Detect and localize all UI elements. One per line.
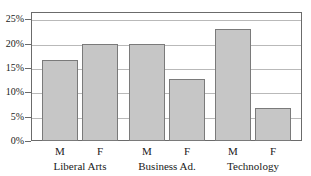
- y-axis-label-20%: 20%: [0, 39, 24, 49]
- x-group-label-business-ad: Business Ad.: [129, 160, 205, 172]
- bar-business-ad-f[interactable]: [169, 79, 205, 141]
- x-group-label-liberal-arts: Liberal Arts: [42, 160, 118, 172]
- x-sub-label-2: M: [129, 145, 165, 157]
- y-axis-label-slot: 0%: [0, 136, 24, 146]
- chart-title: [0, 0, 311, 2]
- x-sub-label-0: M: [42, 145, 78, 157]
- y-tick-0%: [25, 141, 31, 142]
- y-axis-label-slot: 20%: [0, 39, 24, 49]
- x-sub-label-5: F: [255, 145, 291, 157]
- y-axis-label-slot: 15%: [0, 63, 24, 73]
- x-sub-label-4: M: [215, 145, 251, 157]
- bar-business-ad-m[interactable]: [129, 44, 165, 141]
- x-sub-label-3: F: [169, 145, 205, 157]
- y-axis-label-5%: 5%: [0, 112, 24, 122]
- y-axis-label-25%: 25%: [0, 14, 24, 24]
- bar-liberal-arts-f[interactable]: [82, 44, 118, 141]
- x-sub-label-1: F: [82, 145, 118, 157]
- y-axis-label-15%: 15%: [0, 63, 24, 73]
- bar-liberal-arts-m[interactable]: [42, 60, 78, 141]
- y-axis-label-slot: 10%: [0, 87, 24, 97]
- bar-chart: 0%5%10%15%20%25% MFMFMFLiberal ArtsBusin…: [0, 0, 311, 176]
- x-group-label-technology: Technology: [215, 160, 291, 172]
- y-axis-label-0%: 0%: [0, 136, 24, 146]
- bar-technology-m[interactable]: [215, 29, 251, 141]
- y-axis-label-slot: 25%: [0, 14, 24, 24]
- y-axis-label-10%: 10%: [0, 87, 24, 97]
- bars-layer: [31, 12, 302, 141]
- bar-technology-f[interactable]: [255, 108, 291, 141]
- y-axis-label-slot: 5%: [0, 112, 24, 122]
